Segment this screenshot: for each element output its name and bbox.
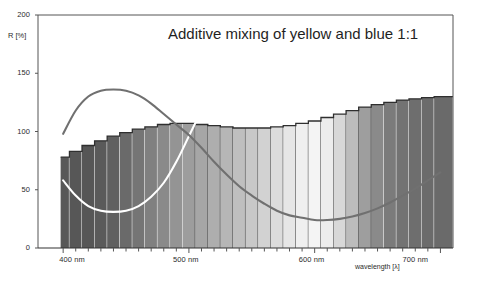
chart-figure: Additive mixing of yellow and blue 1:1 R… [0,0,477,287]
x-tick-label: 600 nm [299,255,325,264]
plot-area [0,0,477,287]
y-tick-label: 0 [4,243,30,252]
chart-title: Additive mixing of yellow and blue 1:1 [168,25,418,42]
y-axis-title: R [%] [8,31,26,40]
y-tick-label: 50 [4,185,30,194]
x-tick-label: 400 nm [59,255,85,264]
x-tick-label: 700 nm [402,255,428,264]
y-tick-label: 100 [4,127,30,136]
x-tick-label: 500 nm [173,255,199,264]
x-axis-title: wavelength [λ] [355,263,400,270]
y-tick-label: 150 [4,68,30,77]
y-tick-label: 200 [4,10,30,19]
